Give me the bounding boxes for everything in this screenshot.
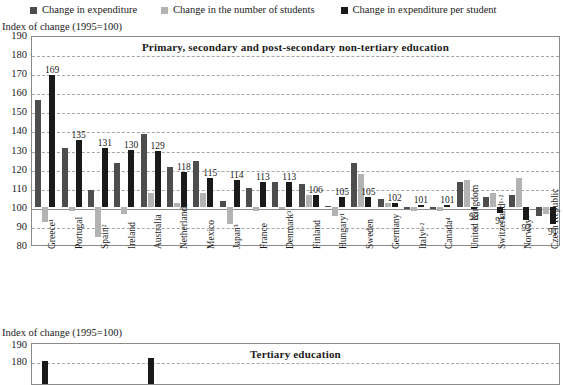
bar[interactable] — [253, 207, 259, 211]
bar[interactable] — [430, 207, 436, 209]
bar-group[interactable] — [85, 344, 111, 384]
bar-group[interactable] — [58, 344, 84, 384]
bar[interactable] — [207, 178, 213, 207]
bar[interactable] — [457, 182, 463, 207]
bar[interactable] — [35, 100, 41, 207]
bar[interactable] — [464, 180, 470, 207]
x-label-cell: Japan³ — [216, 247, 242, 335]
bar[interactable] — [490, 193, 496, 206]
bar-group[interactable] — [32, 344, 58, 384]
y-axis-ticks: 190180 — [0, 343, 30, 385]
bar[interactable] — [306, 195, 312, 206]
bar[interactable] — [121, 207, 127, 215]
bar[interactable] — [339, 197, 345, 207]
bar-group[interactable] — [137, 344, 163, 384]
bar-group[interactable]: 114 — [216, 37, 242, 245]
bar[interactable] — [385, 203, 391, 207]
bar[interactable] — [128, 150, 134, 207]
bar[interactable] — [49, 75, 55, 207]
bar-value-label: 113 — [256, 173, 270, 183]
bar-group[interactable] — [322, 344, 348, 384]
bar[interactable] — [516, 178, 522, 207]
bar[interactable] — [181, 172, 187, 206]
bar[interactable] — [220, 201, 226, 207]
bar-group[interactable]: 135 — [58, 37, 84, 245]
bar[interactable] — [193, 161, 199, 207]
bar[interactable] — [69, 207, 75, 211]
x-axis-label: Hungary¹ — [339, 213, 349, 249]
bar-group[interactable] — [374, 344, 400, 384]
x-label-cell: Australia — [137, 247, 163, 335]
bar[interactable] — [102, 148, 108, 207]
bar-group[interactable]: 169 — [32, 37, 58, 245]
bar[interactable] — [378, 199, 384, 207]
bar-group[interactable] — [454, 344, 480, 384]
y-tick-label: 80 — [17, 241, 28, 252]
bar-group[interactable] — [216, 344, 242, 384]
bar[interactable] — [76, 140, 82, 207]
bar[interactable] — [411, 207, 417, 211]
bar[interactable] — [272, 182, 278, 207]
bar[interactable] — [246, 188, 252, 207]
bar[interactable] — [299, 184, 305, 207]
bar-group[interactable] — [506, 344, 532, 384]
bar-group[interactable] — [269, 344, 295, 384]
y-tick-label: 100 — [11, 203, 27, 214]
bar-group[interactable]: 101 — [427, 37, 453, 245]
bar-group[interactable] — [480, 344, 506, 384]
bar[interactable] — [234, 180, 240, 207]
bar[interactable] — [286, 182, 292, 207]
bar[interactable] — [88, 190, 94, 207]
x-axis-category-labels: Greece¹PortugalSpain²IrelandAustraliaNet… — [31, 247, 560, 335]
bar[interactable] — [148, 358, 154, 384]
bar-group[interactable]: 130 — [111, 37, 137, 245]
bar-group[interactable] — [401, 344, 427, 384]
x-label-cell: Germany — [375, 247, 401, 335]
y-tick-label: 170 — [11, 69, 27, 80]
bar-group[interactable]: 131 — [85, 37, 111, 245]
bar[interactable] — [404, 207, 410, 209]
y-tick-label: 190 — [11, 339, 27, 350]
bar[interactable] — [365, 197, 371, 207]
bar[interactable] — [483, 197, 489, 207]
bar-series-container — [32, 344, 559, 384]
bar-group[interactable]: 113 — [243, 37, 269, 245]
bar[interactable] — [325, 206, 331, 207]
bar-group[interactable]: 106 — [295, 37, 321, 245]
bar[interactable] — [62, 148, 68, 207]
bar[interactable] — [536, 207, 542, 217]
bar[interactable] — [543, 207, 549, 215]
x-axis-label: Netherlands — [180, 203, 190, 249]
bar[interactable] — [148, 193, 154, 206]
bar[interactable] — [114, 163, 120, 207]
x-label-cell: Portugal — [57, 247, 83, 335]
bar[interactable] — [167, 167, 173, 207]
x-label-cell: Spain² — [84, 247, 110, 335]
bar-group[interactable] — [427, 344, 453, 384]
bar[interactable] — [200, 193, 206, 206]
bar-group[interactable] — [348, 344, 374, 384]
bar[interactable] — [155, 151, 161, 206]
bar[interactable] — [227, 207, 233, 224]
bar[interactable] — [260, 182, 266, 207]
bar[interactable] — [509, 195, 515, 206]
bar[interactable] — [313, 195, 319, 206]
bar-group[interactable]: 105 — [348, 37, 374, 245]
bar-value-label: 115 — [203, 169, 217, 179]
bar[interactable] — [279, 207, 285, 209]
bar-group[interactable] — [243, 344, 269, 384]
bar[interactable] — [141, 134, 147, 207]
bar-group[interactable] — [111, 344, 137, 384]
bar[interactable] — [42, 361, 48, 384]
bar-group[interactable] — [164, 344, 190, 384]
bar-group[interactable]: 101 — [401, 37, 427, 245]
bar[interactable] — [351, 163, 357, 207]
bar[interactable] — [437, 207, 443, 211]
x-label-cell: United Kingdom — [454, 247, 480, 335]
bar-group[interactable] — [190, 344, 216, 384]
bar-group[interactable]: 115 — [190, 37, 216, 245]
bar-group[interactable] — [533, 344, 559, 384]
bar-group[interactable] — [295, 344, 321, 384]
bar[interactable] — [392, 203, 398, 207]
bar-group[interactable]: 93 — [506, 37, 532, 245]
